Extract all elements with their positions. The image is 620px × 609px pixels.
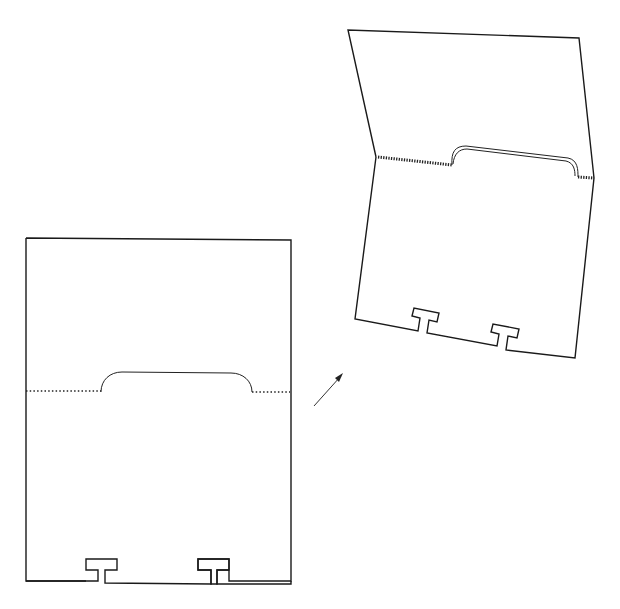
folded-card xyxy=(348,30,594,358)
folded-card-fold-left xyxy=(378,157,452,165)
flat-card-outline xyxy=(26,238,291,584)
diagram-canvas xyxy=(0,0,620,609)
flat-card-tab xyxy=(101,372,252,392)
arrow-icon xyxy=(314,373,343,406)
folded-card-upper-flap xyxy=(348,30,594,178)
folded-card-fold-right xyxy=(578,177,594,178)
folded-card-lower-panel xyxy=(355,157,594,358)
folded-card-tab-inner xyxy=(453,149,575,176)
flat-card xyxy=(26,238,291,584)
folded-card-tab xyxy=(452,146,578,177)
flat-card-bottom-edge xyxy=(26,559,291,584)
